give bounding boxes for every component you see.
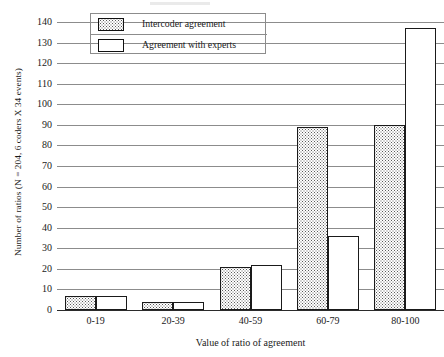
x-axis-tick-label: 0-19 [56, 315, 136, 327]
x-axis-baseline [57, 310, 444, 311]
legend-swatch-experts-icon [98, 39, 124, 52]
bar-intercoder-agreement [220, 267, 251, 310]
x-axis-title: Value of ratio of agreement [57, 337, 444, 349]
y-axis-tick-label: 50 [12, 202, 52, 212]
y-axis-tick-label: 80 [12, 140, 52, 150]
bar-intercoder-agreement [374, 125, 405, 310]
y-axis-tick-label: 140 [12, 17, 52, 27]
bar-group [374, 22, 436, 310]
bar-agreement-with-experts [173, 302, 204, 310]
y-axis-tick-label: 130 [12, 38, 52, 48]
legend-label: Intercoder agreement [142, 18, 226, 30]
y-axis-tick-label: 110 [12, 79, 52, 89]
bar-agreement-with-experts [96, 296, 127, 310]
bar-intercoder-agreement [65, 296, 96, 310]
bar-chart-figure: Number of ratios (N = 204, 6 coders X 34… [0, 0, 444, 357]
y-axis-tick-label: 70 [12, 161, 52, 171]
y-axis-tick-label: 0 [12, 305, 52, 315]
bar-group [142, 22, 204, 310]
y-axis-tick-label: 40 [12, 223, 52, 233]
legend-swatch-intercoder-icon [98, 18, 124, 31]
x-axis-tick-label: 80-100 [365, 315, 444, 327]
bar-intercoder-agreement [297, 127, 328, 310]
y-axis-tick-label: 30 [12, 243, 52, 253]
scan-artifact [150, 2, 210, 5]
legend-label: Agreement with experts [142, 39, 236, 51]
x-axis-tick-label: 40-59 [211, 315, 291, 327]
y-axis-tick-label: 100 [12, 99, 52, 109]
x-axis-tick-label: 20-39 [133, 315, 213, 327]
plot-area [57, 22, 444, 310]
y-axis-tick-label: 60 [12, 182, 52, 192]
x-axis-tick-label: 60-79 [288, 315, 368, 327]
bar-group [297, 22, 359, 310]
bar-group [220, 22, 282, 310]
y-axis-tick-label: 20 [12, 264, 52, 274]
bar-intercoder-agreement [142, 302, 173, 310]
legend-entry: Intercoder agreement [91, 14, 267, 34]
bar-agreement-with-experts [405, 28, 436, 310]
y-axis-tick-label: 90 [12, 120, 52, 130]
y-axis-tick-labels: 0102030405060708090100110120130140 [8, 22, 52, 310]
y-axis-tick-label: 10 [12, 284, 52, 294]
y-axis-tick-label: 120 [12, 58, 52, 68]
legend: Intercoder agreement Agreement with expe… [90, 13, 266, 54]
bar-group [65, 22, 127, 310]
bar-agreement-with-experts [251, 265, 282, 310]
bar-agreement-with-experts [328, 236, 359, 310]
x-axis-tick-labels: 0-1920-3940-5960-7980-100 [57, 315, 444, 329]
legend-entry: Agreement with experts [91, 34, 267, 55]
